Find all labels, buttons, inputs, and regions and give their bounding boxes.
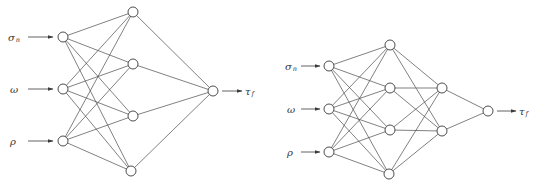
- right-network-edge-input1-hidden10: [329, 45, 390, 109]
- right-network-input-label-0-subscript: n: [293, 65, 297, 73]
- right-network-input-node-2: [324, 147, 334, 157]
- right-network-output-node-0: [483, 106, 493, 116]
- right-network-input-label-2-symbol: ρ: [286, 147, 293, 158]
- left-network-hidden1-node-2: [128, 111, 138, 121]
- edges-layer: [63, 12, 488, 174]
- left-network-edge-input2-hidden11: [63, 64, 133, 141]
- right-network-edge-hidden20-output0: [442, 88, 488, 111]
- left-network-input-node-2: [58, 136, 68, 146]
- left-network-edge-hidden12-output0: [133, 91, 213, 116]
- left-network-input-label-2-symbol: ρ: [9, 136, 16, 147]
- right-network-hidden1-node-2: [385, 125, 395, 135]
- right-network-edge-input2-hidden12: [329, 130, 390, 152]
- left-network-hidden1-node-3: [126, 166, 136, 176]
- left-network-hidden1-node-0: [128, 7, 138, 17]
- right-network-output-label: τf: [519, 106, 530, 119]
- right-network-hidden1-node-3: [384, 169, 394, 179]
- left-network-edge-input2-hidden10: [63, 12, 133, 141]
- right-network-output-label-symbol: τ: [519, 106, 525, 117]
- right-network-hidden1-node-1: [385, 83, 395, 93]
- right-network-edge-hidden21-output0: [442, 111, 488, 131]
- right-network-input-label-0-symbol: σ: [285, 61, 293, 72]
- right-network-edge-hidden10-hidden20: [390, 45, 442, 88]
- left-network-input-label-0: σn: [8, 32, 20, 45]
- right-network-hidden2-node-0: [437, 83, 447, 93]
- left-network-input-node-1: [58, 84, 68, 94]
- left-network-edge-hidden13-output0: [131, 91, 213, 171]
- left-network-output-node-0: [208, 86, 218, 96]
- right-network-input-node-1: [324, 104, 334, 114]
- left-network-hidden1-node-1: [128, 59, 138, 69]
- left-network-input-label-2: ρ: [9, 136, 16, 147]
- left-network-input-label-1: ω: [10, 84, 18, 95]
- left-network-input-label-1-symbol: ω: [10, 84, 18, 95]
- left-network-output-label-symbol: τ: [245, 86, 251, 97]
- left-network-input-label-0-symbol: σ: [8, 32, 16, 43]
- left-network-edge-input2-hidden13: [63, 141, 131, 171]
- left-network-output-label-subscript: f: [251, 90, 256, 98]
- left-network-input-label-0-subscript: n: [16, 36, 20, 44]
- right-network-output-label-subscript: f: [525, 110, 530, 118]
- labels-layer: σnωρτfσnωρτf: [8, 32, 530, 158]
- right-network-input-label-1: ω: [287, 104, 295, 115]
- left-network-input-node-0: [58, 32, 68, 42]
- right-network-edge-input2-hidden13: [329, 152, 389, 174]
- right-network-edge-input2-hidden10: [329, 45, 390, 152]
- right-network-edge-hidden13-hidden21: [389, 131, 442, 174]
- right-network-input-label-2: ρ: [286, 147, 293, 158]
- right-network-input-node-0: [324, 61, 334, 71]
- right-network-hidden1-node-0: [385, 40, 395, 50]
- neural-network-diagram: σnωρτfσnωρτf: [0, 0, 535, 191]
- left-network-edge-input0-hidden10: [63, 12, 133, 37]
- left-network-edge-input1-hidden10: [63, 12, 133, 89]
- right-network-edge-input0-hidden10: [329, 45, 390, 66]
- right-network-input-label-1-symbol: ω: [287, 104, 295, 115]
- left-network-edge-hidden11-output0: [133, 64, 213, 91]
- right-network-hidden2-node-1: [437, 126, 447, 136]
- nodes-layer: [58, 7, 493, 179]
- left-network-edge-input2-hidden12: [63, 116, 133, 141]
- left-network-edge-hidden10-output0: [133, 12, 213, 91]
- right-network-input-label-0: σn: [285, 61, 297, 74]
- left-network-output-label: τf: [245, 86, 256, 99]
